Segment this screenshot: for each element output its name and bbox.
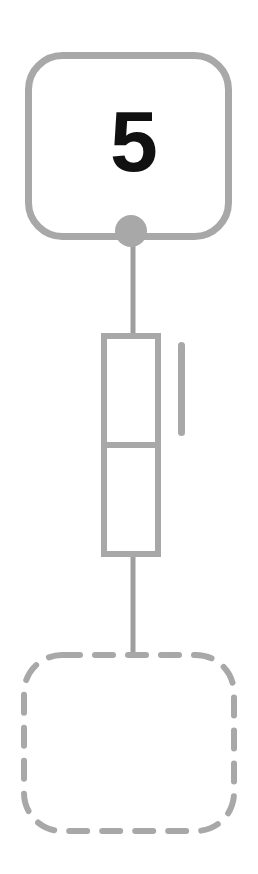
side-bar-icon[interactable] <box>178 342 185 436</box>
node-top-card-label: 5 <box>110 93 158 189</box>
node-bottom-placeholder[interactable] <box>24 655 234 831</box>
connector-dot-icon <box>115 215 147 247</box>
diagram-svg: 5 <box>0 0 258 874</box>
diagram-canvas: 5 <box>0 0 258 874</box>
